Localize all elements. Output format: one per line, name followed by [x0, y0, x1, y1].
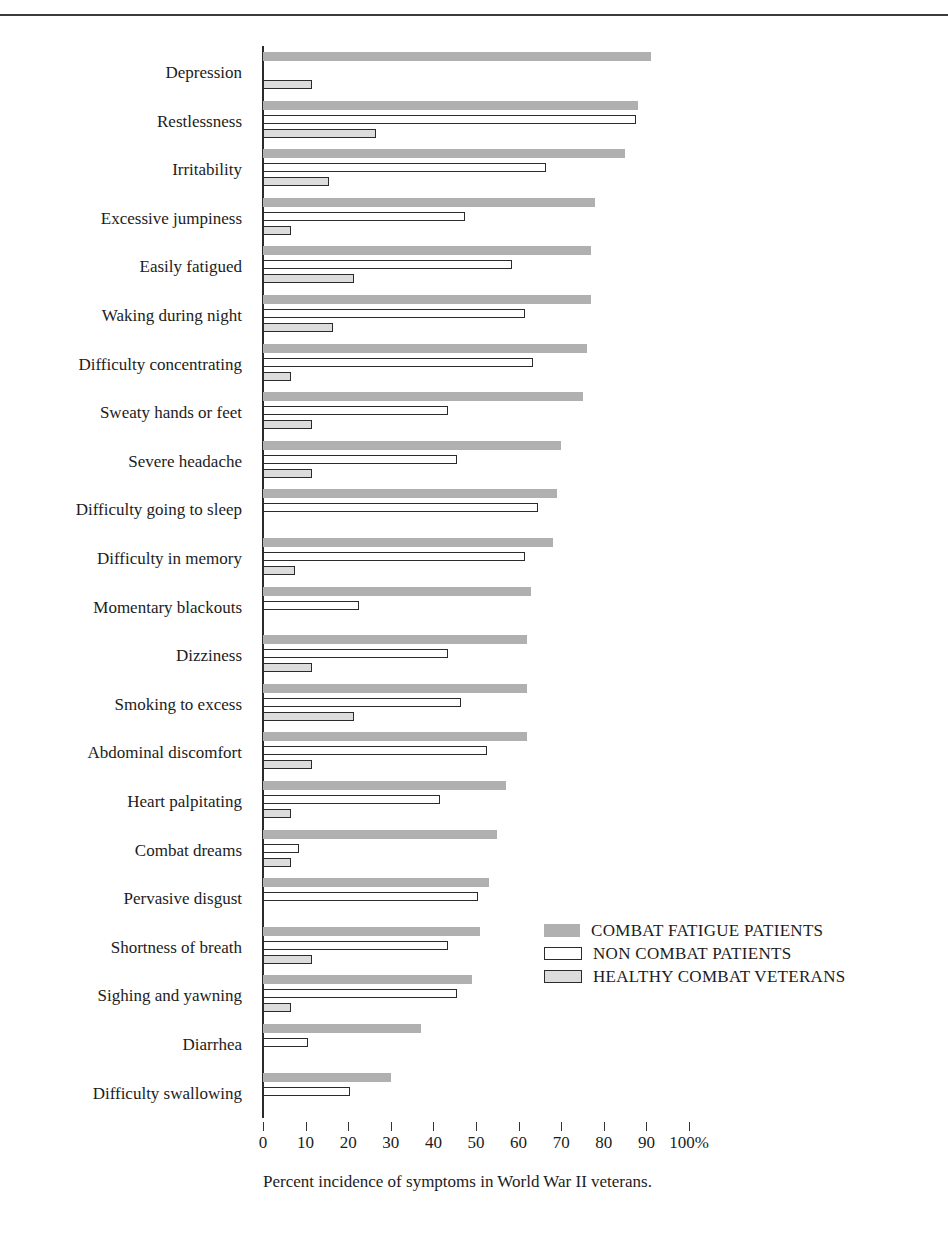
- x-axis-tick: [689, 1122, 690, 1131]
- bar-combat-fatigue-patients: [263, 1024, 421, 1033]
- bar-healthy-combat-veterans: [263, 712, 354, 721]
- x-axis-tick-label: 50: [468, 1133, 485, 1153]
- bar-healthy-combat-veterans: [263, 809, 291, 818]
- category-label: Excessive jumpiness: [101, 210, 242, 228]
- x-axis-tick: [348, 1122, 349, 1131]
- x-axis-tick-label: 70: [553, 1133, 570, 1153]
- bar-non-combat-patients: [263, 115, 636, 124]
- category-label: Easily fatigued: [140, 258, 242, 276]
- bar-non-combat-patients: [263, 406, 448, 415]
- category-label: Pervasive disgust: [123, 890, 242, 908]
- bar-healthy-combat-veterans: [263, 226, 291, 235]
- x-axis-tick: [433, 1122, 434, 1131]
- x-axis-tick-label: 0: [259, 1133, 268, 1153]
- chart-legend: COMBAT FATIGUE PATIENTS NON COMBAT PATIE…: [544, 920, 845, 989]
- category-label: Difficulty going to sleep: [76, 501, 242, 519]
- x-axis-tick: [604, 1122, 605, 1131]
- category-label: Depression: [166, 64, 242, 82]
- bar-healthy-combat-veterans: [263, 372, 291, 381]
- legend-label-non-combat-patients: NON COMBAT PATIENTS: [593, 944, 791, 964]
- bar-combat-fatigue-patients: [263, 878, 489, 887]
- legend-swatch-healthy-combat-veterans: [544, 970, 582, 983]
- bar-combat-fatigue-patients: [263, 246, 591, 255]
- x-axis-tick: [476, 1122, 477, 1131]
- header-divider: [0, 14, 948, 16]
- bar-healthy-combat-veterans: [263, 469, 312, 478]
- x-axis-tick-label: 60: [510, 1133, 527, 1153]
- bar-healthy-combat-veterans: [263, 274, 354, 283]
- x-axis-tick: [263, 1122, 264, 1131]
- category-label: Difficulty concentrating: [79, 356, 243, 374]
- x-axis-tick: [646, 1122, 647, 1131]
- x-axis-tick-label: 20: [340, 1133, 357, 1153]
- bar-non-combat-patients: [263, 601, 359, 610]
- bar-combat-fatigue-patients: [263, 830, 497, 839]
- bar-non-combat-patients: [263, 844, 299, 853]
- bar-non-combat-patients: [263, 260, 512, 269]
- bar-non-combat-patients: [263, 1087, 350, 1096]
- bar-non-combat-patients: [263, 941, 448, 950]
- bar-non-combat-patients: [263, 455, 457, 464]
- bar-combat-fatigue-patients: [263, 975, 472, 984]
- bar-combat-fatigue-patients: [263, 101, 638, 110]
- bar-healthy-combat-veterans: [263, 129, 376, 138]
- x-axis-tick-label: 30: [382, 1133, 399, 1153]
- legend-label-combat-fatigue-patients: COMBAT FATIGUE PATIENTS: [591, 921, 823, 941]
- legend-swatch-combat-fatigue-patients: [544, 924, 580, 937]
- category-label: Waking during night: [102, 307, 242, 325]
- bar-non-combat-patients: [263, 795, 440, 804]
- category-label: Combat dreams: [135, 842, 242, 860]
- bar-combat-fatigue-patients: [263, 392, 583, 401]
- bar-non-combat-patients: [263, 552, 525, 561]
- x-axis-tick-label: 80: [595, 1133, 612, 1153]
- bar-non-combat-patients: [263, 698, 461, 707]
- x-axis-tick-label: 10: [297, 1133, 314, 1153]
- bar-combat-fatigue-patients: [263, 732, 527, 741]
- chart-page: DepressionRestlessnessIrritabilityExcess…: [0, 0, 948, 1235]
- bar-combat-fatigue-patients: [263, 295, 591, 304]
- x-axis-tick: [561, 1122, 562, 1131]
- x-axis-tick-label: 100%: [669, 1133, 709, 1153]
- category-label: Heart palpitating: [127, 793, 242, 811]
- category-label: Sighing and yawning: [98, 987, 243, 1005]
- category-label: Difficulty swallowing: [93, 1085, 242, 1103]
- category-label: Severe headache: [128, 453, 242, 471]
- category-label: Diarrhea: [183, 1036, 242, 1054]
- bar-healthy-combat-veterans: [263, 663, 312, 672]
- bar-combat-fatigue-patients: [263, 441, 561, 450]
- legend-swatch-non-combat-patients: [544, 947, 582, 960]
- chart-caption: Percent incidence of symptoms in World W…: [263, 1172, 652, 1192]
- bar-non-combat-patients: [263, 212, 465, 221]
- bar-non-combat-patients: [263, 358, 533, 367]
- bar-healthy-combat-veterans: [263, 323, 333, 332]
- bar-non-combat-patients: [263, 649, 448, 658]
- bar-non-combat-patients: [263, 892, 478, 901]
- x-axis-tick: [306, 1122, 307, 1131]
- bar-combat-fatigue-patients: [263, 587, 531, 596]
- bar-combat-fatigue-patients: [263, 781, 506, 790]
- bar-combat-fatigue-patients: [263, 927, 480, 936]
- bar-healthy-combat-veterans: [263, 858, 291, 867]
- bar-non-combat-patients: [263, 746, 487, 755]
- bar-combat-fatigue-patients: [263, 489, 557, 498]
- category-label: Dizziness: [176, 647, 242, 665]
- legend-item-ncp: NON COMBAT PATIENTS: [544, 943, 845, 964]
- bar-non-combat-patients: [263, 163, 546, 172]
- legend-item-cfp: COMBAT FATIGUE PATIENTS: [544, 920, 845, 941]
- bar-combat-fatigue-patients: [263, 684, 527, 693]
- bar-combat-fatigue-patients: [263, 1073, 391, 1082]
- x-axis-tick-label: 90: [638, 1133, 655, 1153]
- category-label: Smoking to excess: [115, 696, 243, 714]
- x-axis-tick: [519, 1122, 520, 1131]
- bar-combat-fatigue-patients: [263, 344, 587, 353]
- x-axis-tick-label: 40: [425, 1133, 442, 1153]
- bar-combat-fatigue-patients: [263, 149, 625, 158]
- category-label: Momentary blackouts: [93, 599, 242, 617]
- bar-combat-fatigue-patients: [263, 198, 595, 207]
- bar-healthy-combat-veterans: [263, 955, 312, 964]
- page-header-cropped-text: [28, 0, 328, 12]
- category-label: Irritability: [172, 161, 242, 179]
- bar-healthy-combat-veterans: [263, 420, 312, 429]
- bar-non-combat-patients: [263, 503, 538, 512]
- legend-item-hcv: HEALTHY COMBAT VETERANS: [544, 966, 845, 987]
